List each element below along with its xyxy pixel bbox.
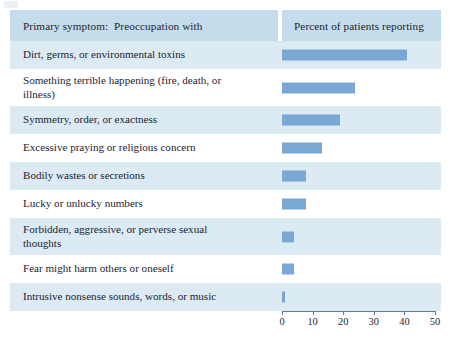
row-plot-cell [282, 190, 441, 218]
row-plot-cell [282, 69, 441, 106]
row-plot-cell [282, 255, 441, 283]
table-header: Primary symptom: Preoccupation with Perc… [10, 10, 441, 41]
row-label: Symmetry, order, or exactness [10, 106, 282, 134]
x-axis-tick-label: 50 [430, 316, 440, 327]
row-label-text: Dirt, germs, or environmental toxins [23, 48, 185, 61]
row-label: Forbidden, aggressive, or perverse sexua… [10, 218, 282, 255]
row-label: Fear might harm others or oneself [10, 255, 282, 283]
table-row: Fear might harm others or oneself [10, 255, 441, 283]
x-axis-tick-label: 10 [307, 316, 317, 327]
row-label-text: Lucky or unlucky numbers [23, 197, 143, 210]
header-label-symptom: Primary symptom: Preoccupation with [10, 20, 202, 32]
bar [282, 50, 407, 61]
row-label: Dirt, germs, or environmental toxins [10, 41, 282, 69]
row-label-text: Something terrible happening (fire, deat… [23, 74, 221, 101]
row-label-text: Forbidden, aggressive, or perverse sexua… [23, 223, 207, 250]
x-axis-line [282, 311, 435, 312]
x-axis-tick [313, 311, 314, 315]
bar [282, 115, 340, 126]
table-row: Intrusive nonsense sounds, words, or mus… [10, 283, 441, 311]
bar [282, 231, 294, 242]
row-label: Bodily wastes or secretions [10, 162, 282, 190]
row-plot-cell [282, 134, 441, 162]
x-axis-tick [374, 311, 375, 315]
table-row: Forbidden, aggressive, or perverse sexua… [10, 218, 441, 255]
table-row: Something terrible happening (fire, deat… [10, 69, 441, 106]
bar [282, 143, 322, 154]
x-axis-tick-label: 40 [399, 316, 409, 327]
x-axis-tick-label: 0 [279, 316, 284, 327]
row-label-text: Intrusive nonsense sounds, words, or mus… [23, 290, 216, 303]
x-axis-tick [282, 311, 283, 315]
row-label: Intrusive nonsense sounds, words, or mus… [10, 283, 282, 311]
header-label-percent: Percent of patients reporting [282, 20, 424, 32]
row-label-text: Bodily wastes or secretions [23, 169, 145, 182]
table-row: Dirt, germs, or environmental toxins [10, 41, 441, 69]
row-label-text: Fear might harm others or oneself [23, 262, 174, 275]
symptom-percent-chart: Primary symptom: Preoccupation with Perc… [10, 10, 441, 336]
x-axis-tick [343, 311, 344, 315]
bar [282, 82, 355, 93]
table-row: Symmetry, order, or exactness [10, 106, 441, 134]
bar [282, 264, 294, 275]
bar [282, 199, 306, 210]
table-row: Lucky or unlucky numbers [10, 190, 441, 218]
chart-rows: Dirt, germs, or environmental toxinsSome… [10, 41, 441, 311]
row-label-text: Excessive praying or religious concern [23, 141, 196, 154]
scan-artifact [4, 1, 18, 8]
row-plot-cell [282, 283, 441, 311]
row-label: Lucky or unlucky numbers [10, 190, 282, 218]
row-plot-cell [282, 162, 441, 190]
header-cell-percent: Percent of patients reporting [282, 10, 441, 41]
row-plot-cell [282, 41, 441, 69]
x-axis-tick [404, 311, 405, 315]
bar [282, 292, 285, 303]
x-axis-tick-label: 30 [369, 316, 379, 327]
row-label: Excessive praying or religious concern [10, 134, 282, 162]
x-axis: 01020304050 [282, 311, 441, 336]
header-cell-symptom: Primary symptom: Preoccupation with [10, 10, 278, 41]
row-plot-cell [282, 218, 441, 255]
table-row: Bodily wastes or secretions [10, 162, 441, 190]
bar [282, 171, 306, 182]
row-label-text: Symmetry, order, or exactness [23, 113, 157, 126]
x-axis-tick-label: 20 [338, 316, 348, 327]
table-row: Excessive praying or religious concern [10, 134, 441, 162]
row-label: Something terrible happening (fire, deat… [10, 69, 282, 106]
row-plot-cell [282, 106, 441, 134]
x-axis-tick [435, 311, 436, 315]
